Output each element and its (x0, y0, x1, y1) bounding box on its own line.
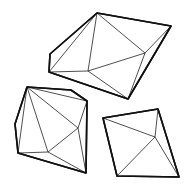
polyhedra-drawing (0, 0, 189, 187)
left-polyhedron (15, 87, 87, 173)
left-polyhedron-outline (15, 87, 87, 173)
right-polyhedron (103, 109, 179, 177)
top-polyhedron (49, 13, 171, 99)
